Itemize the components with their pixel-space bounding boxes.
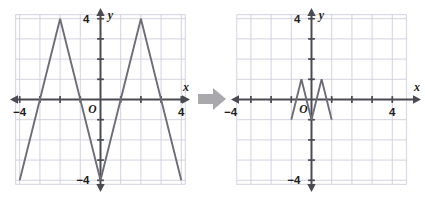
y-tick-label-4: 4 xyxy=(83,13,90,25)
origin-label: O xyxy=(88,103,96,115)
y-tick-label--4: −4 xyxy=(287,174,301,186)
x-tick-label--4: −4 xyxy=(224,106,238,118)
axes-group xyxy=(10,8,190,192)
labels-group: xyO−444−4 xyxy=(224,8,420,186)
x-tick-label--4: −4 xyxy=(13,106,27,118)
x-axis-arrow-right xyxy=(182,95,190,103)
y-axis-arrow-down xyxy=(96,184,104,192)
x-tick-label-4: 4 xyxy=(389,106,396,118)
y-tick-label--4: −4 xyxy=(76,174,90,186)
x-axis-arrow-right xyxy=(413,95,421,103)
y-axis-arrow-up xyxy=(307,8,315,16)
y-tick-label-4: 4 xyxy=(294,13,301,25)
y-axis-label: y xyxy=(106,8,114,22)
figure-canvas: xyO−444−4 xyO−444−4 xyxy=(0,0,425,198)
transformed-graph-panel: xyO−444−4 xyxy=(225,0,425,198)
x-axis-label: x xyxy=(413,80,420,94)
x-axis-arrow-left xyxy=(10,95,18,103)
original-graph-svg: xyO−444−4 xyxy=(0,0,200,198)
y-axis-label: y xyxy=(317,8,325,22)
x-axis-arrow-left xyxy=(231,95,239,103)
origin-label: O xyxy=(299,103,307,115)
y-axis-arrow-up xyxy=(96,8,104,16)
original-graph-panel: xyO−444−4 xyxy=(0,0,200,198)
x-tick-label-4: 4 xyxy=(178,106,185,118)
y-axis-arrow-down xyxy=(307,184,315,192)
x-axis-label: x xyxy=(182,80,189,94)
transformed-graph-svg: xyO−444−4 xyxy=(225,0,425,198)
